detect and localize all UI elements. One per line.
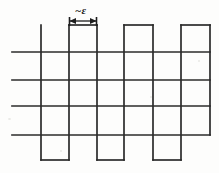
vertical-lines-group [41, 25, 210, 160]
epsilon-label: ~ε [75, 5, 86, 16]
dimension-arrowhead-right [90, 18, 97, 24]
figure-root: ~ε [0, 0, 219, 173]
dimension-arrowhead-left [70, 18, 77, 24]
lattice-drawing [0, 0, 219, 173]
